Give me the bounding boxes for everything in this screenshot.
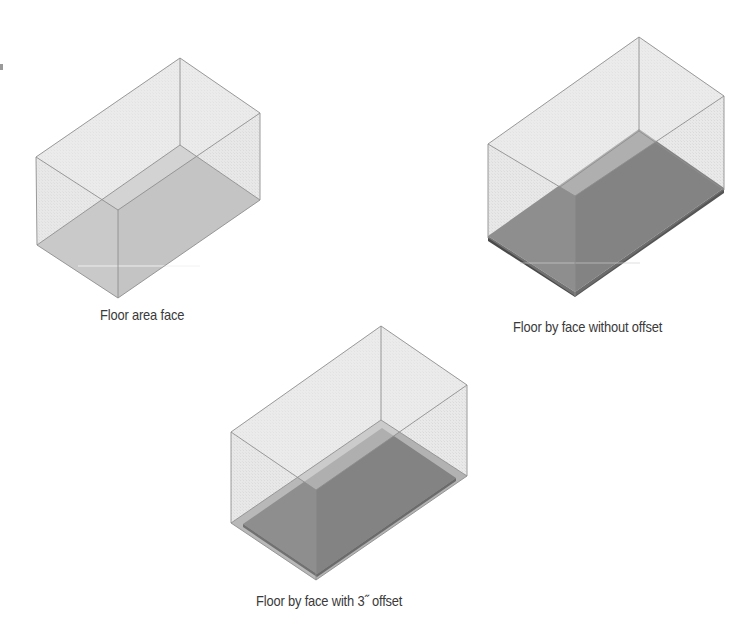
caption-floor-area-face: Floor area face xyxy=(100,306,184,323)
caption-floor-without-offset: Floor by face without offset xyxy=(513,318,662,335)
diagram-canvas: Floor area face Floor by face without of… xyxy=(0,0,754,622)
caption-floor-with-offset: Floor by face with 3˝ offset xyxy=(256,592,402,609)
box-floor-without-offset xyxy=(488,37,724,297)
box-floor-with-offset xyxy=(231,326,467,580)
box-floor-area-face xyxy=(36,58,260,298)
